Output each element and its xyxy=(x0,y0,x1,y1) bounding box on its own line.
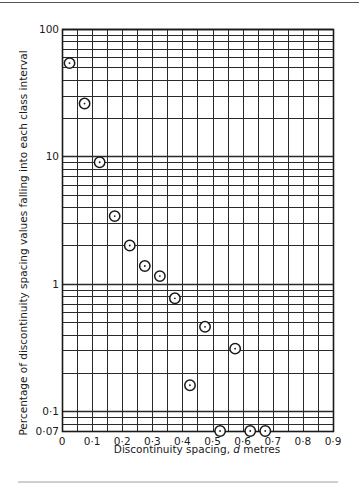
y-tick-label: 0·1 xyxy=(42,405,59,417)
data-point-marker xyxy=(140,261,150,271)
y-tick-label: 100 xyxy=(39,23,59,35)
x-tick-label: 0 xyxy=(59,435,66,447)
data-point-marker xyxy=(155,271,165,281)
y-tick-label: 0·07 xyxy=(36,425,59,437)
x-axis-title-suffix: metres xyxy=(240,443,280,455)
x-axis-title: Discontinuity spacing, d metres xyxy=(114,443,280,455)
x-axis-title-prefix: Discontinuity spacing, xyxy=(114,443,234,455)
data-point-marker xyxy=(79,98,89,108)
x-tick-label: 0·9 xyxy=(325,435,342,447)
y-tick-label: 1 xyxy=(52,278,59,290)
data-point-marker xyxy=(185,380,195,390)
data-point-marker xyxy=(125,240,135,250)
grid-lines xyxy=(62,29,334,432)
data-point-marker xyxy=(94,157,104,167)
y-axis-title: Percentage of discontinuity spacing valu… xyxy=(17,50,29,435)
log-scatter-chart: 1001010·10·07 00·10·20·30·40·50·60·70·80… xyxy=(0,0,359,483)
y-tick-label: 10 xyxy=(46,150,59,162)
y-tick-labels: 1001010·10·07 xyxy=(36,23,59,437)
data-point-marker xyxy=(230,343,240,353)
data-point-marker xyxy=(64,58,74,68)
x-tick-label: 0·8 xyxy=(295,435,312,447)
figure-caption-clipped xyxy=(18,478,338,483)
data-point-marker xyxy=(200,322,210,332)
data-point-marker xyxy=(170,293,180,303)
data-point-marker xyxy=(109,211,119,221)
x-tick-label: 0·1 xyxy=(84,435,101,447)
